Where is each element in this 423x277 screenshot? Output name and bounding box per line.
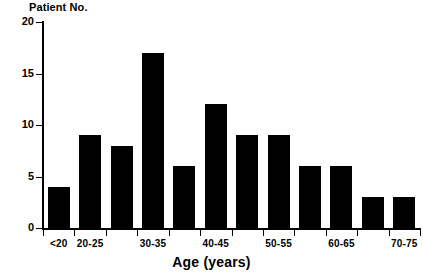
y-axis-tick-label: 0 [4, 222, 34, 233]
bar [142, 53, 164, 228]
y-axis-title: Patient No. [29, 1, 88, 13]
plot-area [43, 22, 420, 228]
bar-chart: Patient No. 05101520 <2020-2530-3540-455… [0, 0, 423, 277]
y-axis-tick-label: 10 [4, 119, 34, 130]
bar [111, 146, 133, 228]
x-axis-tick [74, 230, 75, 236]
x-axis-tick [43, 230, 44, 236]
bar [236, 135, 258, 228]
x-axis-tick [389, 230, 390, 236]
x-axis-tick-label: 50-55 [265, 238, 292, 249]
y-axis-tick-labels: 05101520 [0, 0, 34, 277]
bar [48, 187, 70, 228]
x-axis-tick [169, 230, 170, 236]
bar [205, 104, 227, 228]
x-axis-tick [200, 230, 201, 236]
y-axis-tick-label: 5 [4, 171, 34, 182]
x-axis-tick [420, 230, 421, 236]
x-axis-tick [106, 230, 107, 236]
x-axis-tick-label: 20-25 [77, 238, 104, 249]
y-axis-tick-label: 20 [4, 16, 34, 27]
bar [362, 197, 384, 228]
bar [79, 135, 101, 228]
bar [330, 166, 352, 228]
bar [268, 135, 290, 228]
bar [393, 197, 415, 228]
x-axis-tick-label: 60-65 [328, 238, 355, 249]
x-axis-tick-label: 30-35 [140, 238, 167, 249]
x-axis-tick [326, 230, 327, 236]
bar [299, 166, 321, 228]
x-axis-tick [137, 230, 138, 236]
x-axis-tick [294, 230, 295, 236]
y-axis-tick-label: 15 [4, 68, 34, 79]
x-axis-tick [232, 230, 233, 236]
x-axis-tick [263, 230, 264, 236]
x-axis-tick-label: <20 [50, 238, 68, 249]
x-axis-tick-label: 40-45 [202, 238, 229, 249]
x-axis-tick-label: 70-75 [391, 238, 418, 249]
x-axis-title: Age (years) [0, 254, 423, 270]
bar [173, 166, 195, 228]
x-axis-tick [357, 230, 358, 236]
